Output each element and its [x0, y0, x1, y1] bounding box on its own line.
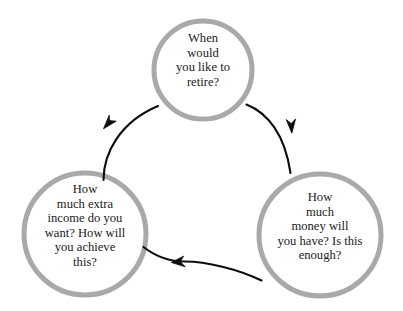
node-label-retire-line-1: When — [153, 31, 253, 46]
node-label-money-line-5: enough? — [258, 248, 382, 263]
node-label-income-line-1: How — [23, 182, 147, 197]
node-label-income-line-4: want? How will — [23, 226, 147, 241]
arrow-head-income-to-retire — [104, 115, 117, 129]
node-label-money-line-4: you have? Is this — [258, 234, 382, 249]
node-label-income-line-5: you achieve — [23, 240, 147, 255]
arrow-path-retire-to-money — [247, 105, 291, 174]
node-label-retire-line-2: would — [153, 46, 253, 61]
arrow-path-income-to-retire — [104, 106, 159, 180]
cycle-diagram: When would you like to retire? How much … — [0, 0, 403, 311]
node-label-income: How much extra income do you want? How w… — [23, 182, 147, 270]
arrow-income-to-retire — [104, 106, 159, 180]
node-label-money: How much money will you have? Is this en… — [258, 190, 382, 263]
node-label-money-line-2: much — [258, 205, 382, 220]
arrow-retire-to-money — [247, 105, 296, 174]
node-label-money-line-1: How — [258, 190, 382, 205]
node-label-income-line-6: this? — [23, 255, 147, 270]
arrow-path-money-to-income — [144, 247, 262, 281]
node-label-income-line-2: much extra — [23, 197, 147, 212]
node-label-retire-line-4: retire? — [153, 75, 253, 90]
arrow-money-to-income — [144, 247, 262, 281]
node-label-money-line-3: money will — [258, 219, 382, 234]
node-label-retire-line-3: you like to — [153, 60, 253, 75]
node-label-retire: When would you like to retire? — [153, 31, 253, 89]
node-label-income-line-3: income do you — [23, 211, 147, 226]
arrow-head-retire-to-money — [286, 119, 295, 133]
